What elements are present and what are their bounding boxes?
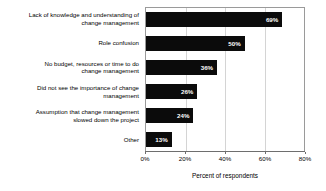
category-label: Lack of knowledge and understanding ofch…	[29, 11, 139, 26]
x-tick-label: 0%	[141, 155, 150, 162]
category-label-row: Did not see the importance of changemana…	[2, 80, 143, 104]
category-axis-labels: Lack of knowledge and understanding ofch…	[2, 7, 143, 152]
x-tick-mark	[185, 152, 186, 154]
x-tick-mark	[265, 152, 266, 154]
category-label-line: Other	[124, 136, 139, 144]
x-tick-label: 40%	[219, 155, 231, 162]
bar: 13%	[146, 132, 172, 147]
bar-value-label: 13%	[155, 136, 167, 143]
x-tick-label: 60%	[259, 155, 271, 162]
category-label: No budget, resources or time to dochange…	[44, 60, 139, 75]
x-tick-mark	[145, 152, 146, 154]
category-label-line: slowed down the project	[36, 116, 139, 124]
category-label-row: No budget, resources or time to dochange…	[2, 55, 143, 79]
category-label-line: change management	[29, 19, 139, 27]
category-label-line: No budget, resources or time to do	[44, 60, 139, 68]
category-label: Other	[124, 136, 139, 144]
bar-chart: Lack of knowledge and understanding ofch…	[0, 0, 326, 191]
bar-row: 13%	[146, 127, 304, 151]
category-label-line: management	[37, 92, 139, 100]
x-tick-mark	[305, 152, 306, 154]
x-axis-title: Percent of respondents	[145, 172, 305, 179]
bar-value-label: 26%	[181, 88, 193, 95]
bar-row: 50%	[146, 32, 304, 56]
bar-value-label: 24%	[177, 112, 189, 119]
category-label-line: Role confusion	[98, 39, 139, 47]
bar-row: 36%	[146, 56, 304, 80]
category-label-line: change management	[44, 67, 139, 75]
plot-area: 69%50%36%26%24%13%	[145, 7, 305, 152]
bar: 69%	[146, 12, 282, 27]
x-tick-label: 20%	[179, 155, 191, 162]
bar-row: 69%	[146, 8, 304, 32]
x-tick-mark	[225, 152, 226, 154]
bar-row: 24%	[146, 103, 304, 127]
bar: 36%	[146, 60, 217, 75]
category-label-row: Other	[2, 128, 143, 152]
category-label: Role confusion	[98, 39, 139, 47]
x-tick-label: 80%	[299, 155, 311, 162]
category-label-row: Lack of knowledge and understanding ofch…	[2, 7, 143, 31]
bar-value-label: 36%	[201, 64, 213, 71]
x-axis-ticks: 0%20%40%60%80%	[145, 152, 305, 162]
category-label: Did not see the importance of changemana…	[37, 84, 139, 99]
bar: 24%	[146, 108, 193, 123]
bar-value-label: 50%	[228, 40, 240, 47]
category-label-line: Did not see the importance of change	[37, 84, 139, 92]
bar: 50%	[146, 36, 245, 51]
category-label-line: Assumption that change management	[36, 108, 139, 116]
bar-row: 26%	[146, 79, 304, 103]
category-label: Assumption that change managementslowed …	[36, 108, 139, 123]
bar-series: 69%50%36%26%24%13%	[146, 8, 304, 151]
category-label-line: Lack of knowledge and understanding of	[29, 11, 139, 19]
category-label-row: Role confusion	[2, 31, 143, 55]
bar-value-label: 69%	[266, 16, 278, 23]
bar: 26%	[146, 84, 197, 99]
category-label-row: Assumption that change managementslowed …	[2, 104, 143, 128]
